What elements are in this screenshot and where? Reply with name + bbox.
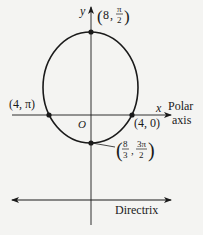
point-top [88, 29, 93, 34]
svg-text:(: ( [116, 139, 123, 162]
point-left [46, 112, 51, 117]
ellipse-curve [43, 32, 138, 143]
label-top-point: ( 8 , π 2 ) [97, 4, 130, 26]
svg-text:3: 3 [123, 150, 128, 160]
label-left-point: (4, π) [9, 97, 35, 111]
x-axis-label: x [155, 101, 162, 115]
label-bottom-point: ( 8 3 , 3π 2 ) [116, 139, 155, 162]
svg-text:): ) [124, 7, 130, 26]
polar-axis-label-2: axis [172, 113, 192, 127]
svg-text:,: , [110, 8, 113, 22]
svg-text:8: 8 [103, 8, 109, 22]
svg-text:3π: 3π [137, 139, 147, 149]
label-right-point: (4, 0) [134, 116, 160, 130]
svg-text:2: 2 [117, 15, 122, 25]
y-axis-label: y [79, 4, 86, 18]
svg-text:π: π [117, 4, 122, 14]
svg-text:,: , [131, 144, 134, 156]
polar-ellipse-diagram: y x O Polar axis ( 8 , π 2 ) (4, π) (4, … [0, 0, 203, 235]
directrix-label: Directrix [115, 203, 158, 217]
polar-axis-label: Polar [168, 99, 193, 113]
svg-text:2: 2 [139, 150, 144, 160]
bottom-leader-line [92, 143, 115, 147]
svg-text:8: 8 [123, 139, 128, 149]
origin-label: O [78, 118, 86, 130]
svg-text:): ) [148, 139, 155, 162]
